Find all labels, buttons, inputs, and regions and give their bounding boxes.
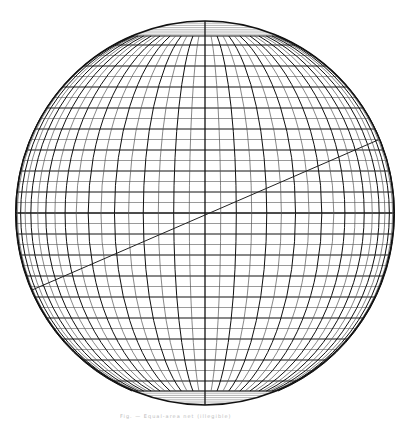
- sphere-net-diagram: [0, 0, 414, 425]
- figure-caption: Fig. — Equal-area net (illegible): [120, 413, 300, 421]
